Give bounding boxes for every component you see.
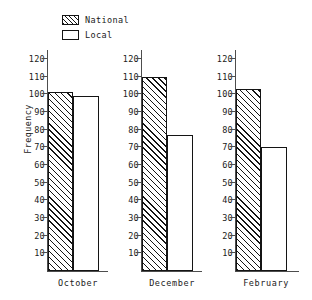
plot-area bbox=[142, 50, 202, 271]
y-axis-tick-label: 20 bbox=[222, 231, 233, 241]
y-axis-tick-label: 60 bbox=[128, 160, 139, 170]
y-axis-tick-label: 30 bbox=[128, 213, 139, 223]
y-axis-tick-label: 40 bbox=[34, 195, 45, 205]
y-axis-tick-label: 60 bbox=[222, 160, 233, 170]
bar-local bbox=[167, 135, 193, 271]
chart-panel-december: 102030405060708090100110120 December bbox=[110, 50, 202, 295]
y-axis-tick-label: 30 bbox=[222, 213, 233, 223]
legend-label-local: Local bbox=[85, 30, 113, 40]
y-axis-tick-label: 50 bbox=[128, 178, 139, 188]
legend-item-national: National bbox=[62, 13, 182, 26]
y-axis-tick-label: 80 bbox=[128, 125, 139, 135]
chart-panel-february: 102030405060708090100110120 February bbox=[204, 50, 300, 295]
y-axis-tick-label: 50 bbox=[222, 178, 233, 188]
y-axis-tick-label: 60 bbox=[34, 160, 45, 170]
bar-national bbox=[48, 92, 73, 271]
chart-legend: National Local bbox=[62, 13, 182, 43]
plot-area bbox=[48, 50, 108, 271]
y-axis-tick-label: 80 bbox=[34, 125, 45, 135]
bar-local bbox=[261, 147, 287, 271]
y-axis-tick-label: 30 bbox=[34, 213, 45, 223]
y-axis-tick-label: 90 bbox=[128, 107, 139, 117]
bar-local bbox=[73, 96, 99, 271]
category-label: February bbox=[218, 278, 312, 288]
y-axis-tick-label: 40 bbox=[128, 195, 139, 205]
y-axis-tick-label: 120 bbox=[217, 54, 233, 64]
y-axis-tick-label: 110 bbox=[123, 72, 139, 82]
plot-area bbox=[236, 50, 296, 271]
y-axis-tick-label: 40 bbox=[222, 195, 233, 205]
y-axis-tick-label: 120 bbox=[123, 54, 139, 64]
bar-national bbox=[236, 89, 261, 271]
chart-panel-october: 102030405060708090100110120 October bbox=[16, 50, 108, 295]
y-axis-tick-label: 20 bbox=[34, 231, 45, 241]
y-axis-tick-label: 120 bbox=[29, 54, 45, 64]
y-axis-tick-label: 20 bbox=[128, 231, 139, 241]
y-axis-tick-label: 110 bbox=[29, 72, 45, 82]
bar-national bbox=[142, 77, 167, 271]
y-axis-tick-label: 10 bbox=[128, 248, 139, 258]
bar-chart: National Local Frequency 102030405060708… bbox=[0, 0, 312, 300]
y-axis-tick-label: 90 bbox=[34, 107, 45, 117]
y-axis-tick-label: 100 bbox=[29, 89, 45, 99]
legend-label-national: National bbox=[85, 15, 129, 25]
y-axis-tick-label: 80 bbox=[222, 125, 233, 135]
y-axis-tick-label: 10 bbox=[34, 248, 45, 258]
x-axis-baseline bbox=[47, 271, 108, 272]
x-axis-baseline bbox=[141, 271, 202, 272]
y-axis-tick-label: 100 bbox=[217, 89, 233, 99]
y-axis-tick-label: 10 bbox=[222, 248, 233, 258]
legend-swatch-local-icon bbox=[62, 30, 79, 40]
y-axis-tick-label: 70 bbox=[128, 142, 139, 152]
y-axis-tick-label: 70 bbox=[222, 142, 233, 152]
legend-item-local: Local bbox=[62, 28, 182, 41]
legend-swatch-national-icon bbox=[62, 15, 79, 25]
x-axis-baseline bbox=[235, 271, 299, 272]
y-axis-tick-label: 50 bbox=[34, 178, 45, 188]
y-axis-tick-label: 100 bbox=[123, 89, 139, 99]
y-axis-tick-label: 90 bbox=[222, 107, 233, 117]
y-axis-tick-label: 110 bbox=[217, 72, 233, 82]
y-axis-tick-label: 70 bbox=[34, 142, 45, 152]
